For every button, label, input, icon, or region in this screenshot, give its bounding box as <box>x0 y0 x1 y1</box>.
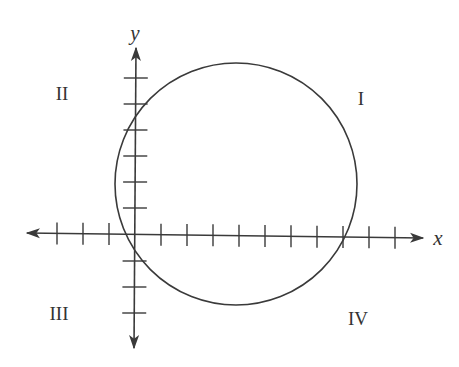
circle <box>115 63 357 305</box>
quadrant-label-i: I <box>358 89 364 108</box>
quadrant-label-ii: II <box>56 84 69 103</box>
x-axis-label: x <box>433 228 442 249</box>
coordinate-plane-diagram <box>0 0 459 367</box>
y-axis-label: y <box>130 23 139 44</box>
quadrant-label-iii: III <box>50 304 69 323</box>
x-axis <box>27 233 423 238</box>
y-axis <box>134 48 136 348</box>
quadrant-label-iv: IV <box>348 309 368 328</box>
